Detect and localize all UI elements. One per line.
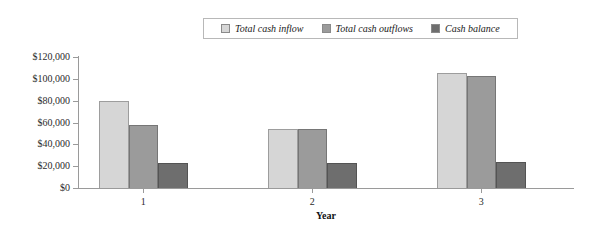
bar-3-1 bbox=[437, 73, 467, 188]
x-axis-tick bbox=[481, 189, 482, 193]
bar-chart: Total cash inflow Total cash outflows Ca… bbox=[0, 0, 608, 229]
x-axis-tick-label: 3 bbox=[461, 196, 501, 207]
bar-1-2 bbox=[129, 125, 159, 188]
bar-2-2 bbox=[298, 129, 328, 188]
x-axis-tick-label: 2 bbox=[292, 196, 332, 207]
x-axis-title: Year bbox=[78, 210, 574, 221]
bar-1-3 bbox=[158, 163, 188, 188]
bar-3-3 bbox=[496, 162, 526, 188]
bar-2-3 bbox=[327, 163, 357, 188]
bar-3-2 bbox=[467, 76, 497, 188]
x-axis-tick-label: 1 bbox=[123, 196, 163, 207]
bar-1-1 bbox=[99, 101, 129, 188]
x-axis-tick bbox=[312, 189, 313, 193]
bar-2-1 bbox=[268, 129, 298, 188]
plot-area bbox=[78, 57, 574, 188]
x-axis-tick bbox=[143, 189, 144, 193]
